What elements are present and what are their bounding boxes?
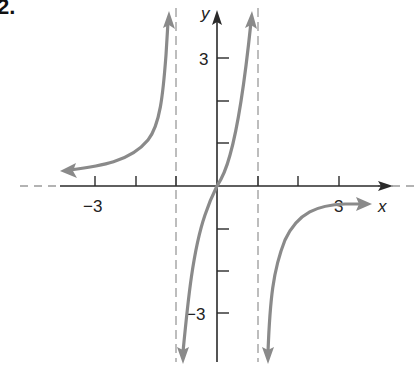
x-tick-label-3: 3: [334, 197, 343, 216]
x-axis-label: x: [377, 197, 387, 216]
graph: −3 3 3 −3 x y: [0, 0, 420, 377]
curve-left-branch: [70, 22, 168, 170]
x-tick-label-neg3: −3: [83, 197, 102, 216]
curve-right-branch: [268, 204, 360, 352]
y-axis-label: y: [200, 4, 211, 23]
y-tick-label-3: 3: [199, 50, 208, 69]
